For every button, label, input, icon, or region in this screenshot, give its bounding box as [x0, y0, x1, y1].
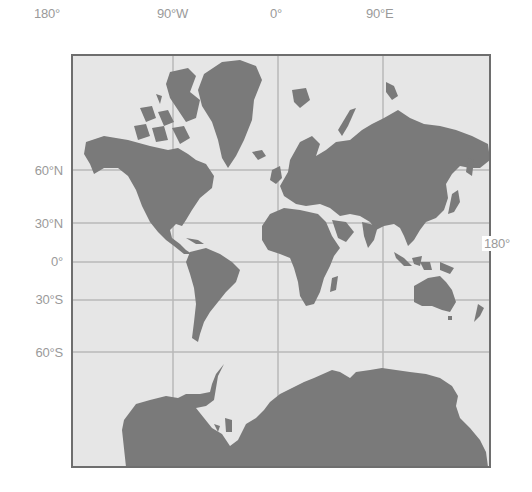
longitude-label-90w: 90°W	[157, 6, 188, 21]
land-tasmania	[448, 316, 452, 320]
latitude-label-30s: 30°S	[3, 292, 63, 307]
world-map	[0, 0, 532, 492]
latitude-label-30n: 30°N	[3, 216, 63, 231]
longitude-label-90e: 90°E	[366, 6, 394, 21]
latitude-label-0: 0°	[3, 254, 63, 269]
longitude-label-0: 0°	[270, 6, 282, 21]
longitude-label-180-right: 180°	[482, 236, 510, 251]
longitude-label-180: 180°	[34, 6, 60, 21]
latitude-label-60n: 60°N	[3, 163, 63, 178]
latitude-label-60s: 60°S	[3, 345, 63, 360]
